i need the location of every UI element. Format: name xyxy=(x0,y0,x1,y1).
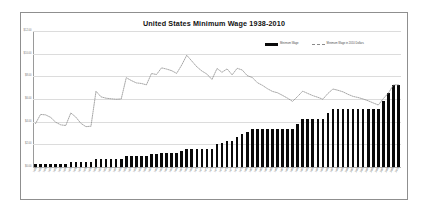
x-axis-year-labels: 1938193919401941194219431944194519461947… xyxy=(33,167,401,195)
y-axis-tick-label: $4.00 xyxy=(25,120,32,123)
line-series-real-wage xyxy=(33,31,401,167)
y-axis-tick-label: $6.00 xyxy=(25,98,32,101)
y-axis-tick-label: $2.00 xyxy=(25,143,32,146)
x-axis-tick-label: 2010 xyxy=(396,167,401,173)
y-axis-tick-label: $0.00 xyxy=(25,166,32,169)
y-axis-tick-label: $12.00 xyxy=(24,30,32,33)
chart-frame: United States Minimum Wage 1938-2010 Min… xyxy=(20,12,408,200)
y-axis-tick-label: $8.00 xyxy=(25,75,32,78)
chart-title: United States Minimum Wage 1938-2010 xyxy=(21,19,407,28)
real-wage-dotted-path xyxy=(36,55,399,126)
screenshot-root: United States Minimum Wage 1938-2010 Min… xyxy=(0,0,424,214)
y-axis-tick-label: $10.00 xyxy=(24,52,32,55)
plot-area: $12.00$10.00$8.00$6.00$4.00$2.00$0.00 xyxy=(33,31,401,167)
